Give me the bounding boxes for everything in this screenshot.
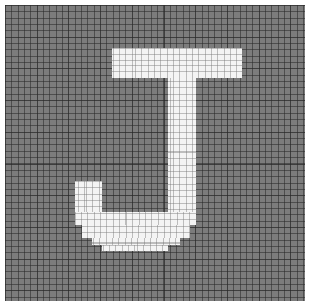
letter-curve-row-2	[92, 238, 180, 245]
letter-stem	[168, 78, 196, 225]
letter-curve-row-1	[82, 225, 190, 238]
letter-hook-bottom	[75, 212, 196, 225]
letter-curve-row-3	[102, 245, 168, 251]
letter-top-bar	[112, 48, 242, 78]
